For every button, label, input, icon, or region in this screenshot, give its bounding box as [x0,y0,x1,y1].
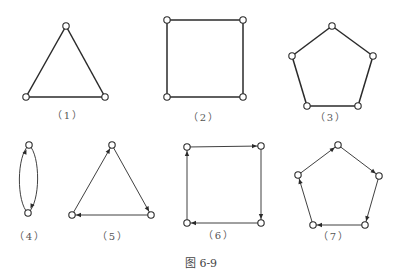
vertex-node [310,222,316,228]
arrowhead-icon [259,214,263,219]
graph-label-5: （5） [97,228,129,243]
vertex-node [258,220,264,226]
graph-label-1: （1） [52,107,84,122]
vertex-node [184,144,190,150]
edge [292,56,307,106]
arrowhead-icon [252,144,257,148]
figure-caption: 图 6-9 [185,254,217,270]
vertex-node [289,53,295,59]
graph-label-4: （4） [14,228,46,243]
arrowhead-icon [317,223,322,227]
vertex-node [69,212,75,218]
vertex-node [304,103,310,109]
graph-2-undirected-square [164,17,246,100]
vertex-node [376,173,382,179]
vertex-node [102,94,108,100]
graph-5-directed-triangle [69,142,154,218]
vertex-node [26,142,32,148]
edge-arc-right [28,145,38,213]
edge [292,26,332,56]
graph-6-directed-square [184,143,264,226]
graph-1-undirected-triangle [23,23,108,100]
vertex-node [295,172,301,178]
vertex-node [184,220,190,226]
arrowhead-icon [365,216,369,221]
vertex-node [164,17,170,23]
arrowhead-icon [76,213,81,217]
arrowhead-icon [298,179,302,184]
vertex-node [164,94,170,100]
graph-4-directed-two-cycle [19,142,37,216]
directed-edge [187,146,261,147]
arrowhead-icon [329,147,334,152]
graph-3-undirected-pentagon [289,23,376,109]
graph-7-directed-pentagon [295,142,382,228]
vertex-node [148,212,154,218]
directed-edge [72,145,112,215]
vertex-node [355,103,361,109]
graph-label-3: （3） [315,109,347,124]
graph-label-7: （7） [318,228,350,243]
vertex-node [23,94,29,100]
vertex-node [362,222,368,228]
edge-arc-left [19,145,29,213]
edge [358,56,373,106]
arrowhead-icon [370,169,375,174]
arrowhead-icon [191,221,196,225]
graph-label-2: （2） [188,109,220,124]
edge [66,26,105,97]
vertex-node [240,94,246,100]
vertex-node [63,23,69,29]
vertex-node [240,17,246,23]
arrowhead-icon [185,151,189,156]
directed-edge [112,145,151,215]
edge [26,26,66,97]
vertex-node [25,210,31,216]
graph-label-6: （6） [203,227,235,242]
vertex-node [109,142,115,148]
vertex-node [370,53,376,59]
vertex-node [335,142,341,148]
vertex-node [329,23,335,29]
edge [332,26,373,56]
vertex-node [258,143,264,149]
